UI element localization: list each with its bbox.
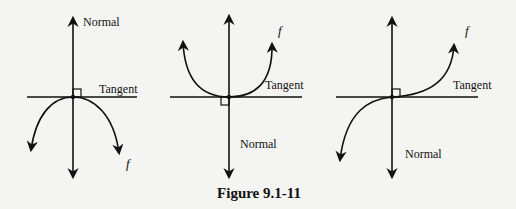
diagram-canvas: Normal Tangent f Tangent Normal f Tangen…	[0, 0, 516, 209]
normal-label: Normal	[240, 137, 277, 151]
figure-9-1-11: Normal Tangent f Tangent Normal f Tangen…	[0, 0, 516, 209]
panel-inflection: Tangent Normal f	[336, 18, 492, 177]
tangent-label: Tangent	[453, 78, 492, 92]
curve-left-branch	[31, 97, 73, 150]
function-label: f	[465, 23, 471, 38]
curve-left-branch	[340, 97, 392, 160]
function-label: f	[126, 156, 132, 171]
normal-label: Normal	[83, 15, 120, 29]
normal-label: Normal	[405, 147, 442, 161]
function-label: f	[278, 23, 284, 38]
tangent-label: Tangent	[265, 78, 304, 92]
panel-concave-down: Normal Tangent f	[27, 15, 138, 177]
tangent-label: Tangent	[99, 82, 138, 96]
panel-concave-up: Tangent Normal f	[170, 16, 304, 177]
curve-right-branch	[392, 45, 454, 97]
figure-caption: Figure 9.1-11	[217, 185, 301, 201]
curve-left-branch	[183, 42, 229, 97]
curve-right-branch	[73, 97, 119, 153]
